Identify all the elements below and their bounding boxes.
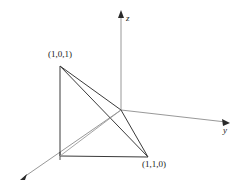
x-axis-arrowhead-icon: [20, 174, 27, 180]
edge-v101-origin: [60, 66, 121, 110]
axis-label-z: z: [126, 14, 130, 23]
z-axis-arrowhead-icon: [118, 10, 124, 18]
tetrahedron-3d-figure: (1,0,1) (1,1,0) z y: [0, 0, 237, 187]
axis-label-y: y: [223, 126, 227, 135]
vertex-label-1-1-0: (1,1,0): [142, 160, 166, 169]
x-axis-line: [24, 110, 121, 177]
edge-v100-origin: [60, 110, 121, 156]
tetrahedron-hidden-edges-group: [60, 110, 121, 156]
axis-arrowheads-group: [20, 10, 230, 180]
figure-canvas: [0, 0, 237, 187]
axes-group: [24, 14, 226, 177]
edge-v100-v110: [60, 156, 148, 157]
y-axis-line: [121, 110, 226, 122]
vertex-label-1-0-1: (1,0,1): [48, 50, 72, 59]
